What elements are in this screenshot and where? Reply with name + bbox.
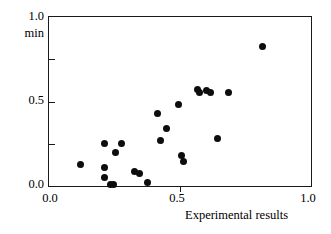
data-point [180, 158, 187, 165]
y-axis-tick-label-top: 1.0 [20, 10, 44, 23]
data-point [112, 149, 119, 156]
y-axis-tick-label-mid: 0.5 [18, 94, 44, 107]
data-point [118, 140, 125, 147]
x-axis-tick-label-max: 1.0 [295, 192, 321, 205]
data-point [144, 179, 151, 186]
data-point [77, 161, 84, 168]
data-point [259, 43, 266, 50]
data-point [136, 170, 143, 177]
data-point [157, 137, 164, 144]
data-point [101, 174, 108, 181]
data-point [163, 125, 170, 132]
data-point [207, 89, 214, 96]
data-point [214, 135, 221, 142]
y-axis-unit-label: min [20, 27, 44, 40]
data-point-layer [49, 17, 311, 186]
data-point [175, 101, 182, 108]
y-axis-tick-label-zero: 0.0 [18, 178, 44, 191]
data-point [101, 140, 108, 147]
x-axis-title: Experimental results [185, 209, 288, 222]
data-point [110, 181, 117, 188]
data-point [101, 164, 108, 171]
data-point [154, 110, 161, 117]
scatter-plot-figure: 1.0 min 0.5 0.0 0.0 0.5 1.0 Experimental… [0, 0, 331, 234]
plot-frame [48, 16, 312, 187]
data-point [225, 89, 232, 96]
x-axis-tick-label-zero: 0.0 [37, 192, 63, 205]
x-axis-tick-label-mid: 0.5 [164, 192, 190, 205]
